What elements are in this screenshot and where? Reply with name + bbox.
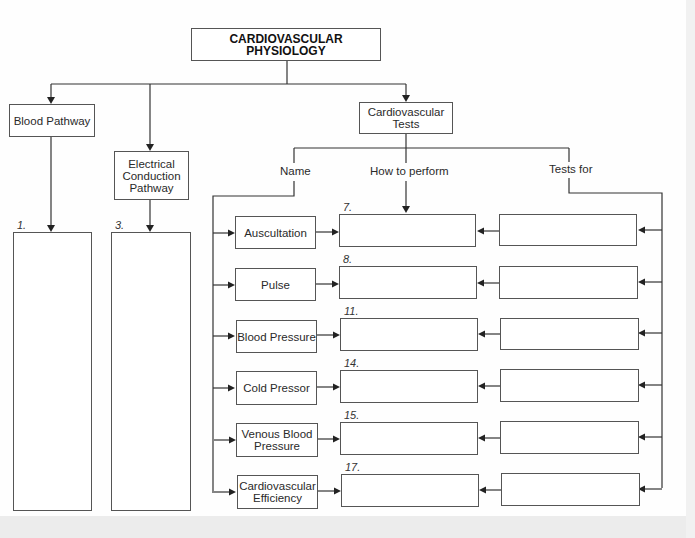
how-to-perform-answer-box[interactable] (339, 266, 477, 299)
test-name-box: Cold Pressor (236, 371, 317, 405)
test-name-box: Pulse (235, 268, 316, 301)
blood-pathway-label: Blood Pathway (14, 115, 91, 127)
test-name-label: Pulse (261, 279, 290, 291)
test-name-label-line1: Venous Blood (242, 428, 313, 440)
how-to-perform-answer-box[interactable] (341, 474, 479, 507)
test-name-label-line2: Pressure (254, 440, 300, 452)
column-label-how: How to perform (370, 165, 449, 177)
test-name-label: Auscultation (244, 227, 307, 239)
electrical-label-line3: Pathway (129, 182, 173, 194)
how-number: 15. (344, 409, 359, 421)
how-number: 11. (344, 305, 358, 317)
tests-label-line1: Cardiovascular (368, 106, 445, 118)
test-name-box: Auscultation (235, 216, 316, 249)
electrical-pathway-answer-box[interactable] (111, 232, 191, 511)
how-to-perform-answer-box[interactable] (340, 318, 478, 351)
how-number: 8. (343, 253, 352, 265)
blank-number-1: 1. (17, 219, 26, 231)
blood-pathway-box: Blood Pathway (9, 104, 95, 137)
tests-for-answer-box[interactable] (500, 421, 639, 454)
test-name-box: Blood Pressure (236, 320, 317, 353)
how-number: 14. (344, 357, 359, 369)
tests-for-answer-box[interactable] (499, 266, 638, 299)
how-to-perform-answer-box[interactable] (340, 370, 478, 403)
how-number: 17. (345, 461, 360, 473)
tests-for-answer-box[interactable] (500, 369, 639, 402)
test-name-box: Venous Blood Pressure (236, 423, 318, 457)
test-name-box: Cardiovascular Efficiency (237, 475, 318, 509)
test-name-label: Cold Pressor (243, 382, 309, 394)
column-label-name: Name (280, 165, 311, 177)
title-box: CARDIOVASCULAR PHYSIOLOGY (191, 28, 381, 61)
tests-label-line2: Tests (393, 118, 420, 130)
how-to-perform-answer-box[interactable] (340, 422, 478, 455)
diagram-title: CARDIOVASCULAR PHYSIOLOGY (192, 33, 380, 57)
tests-for-answer-box[interactable] (499, 214, 637, 246)
tests-for-answer-box[interactable] (500, 318, 639, 350)
test-name-label-line2: Efficiency (253, 492, 302, 504)
test-name-label: Blood Pressure (237, 331, 316, 343)
test-name-label-line1: Cardiovascular (239, 480, 316, 492)
electrical-label-line1: Electrical (128, 158, 175, 170)
how-to-perform-answer-box[interactable] (339, 214, 476, 247)
cardiovascular-tests-box: Cardiovascular Tests (359, 102, 453, 134)
column-label-tests-for: Tests for (549, 163, 592, 175)
blood-pathway-answer-box[interactable] (13, 232, 92, 511)
blank-number-3: 3. (115, 219, 124, 231)
electrical-conduction-box: Electrical Conduction Pathway (114, 151, 189, 200)
tests-for-answer-box[interactable] (501, 473, 640, 506)
how-number: 7. (343, 201, 352, 213)
electrical-label-line2: Conduction (122, 170, 180, 182)
